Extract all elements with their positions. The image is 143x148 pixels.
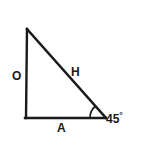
triangle-figure: O H A 45° bbox=[0, 0, 143, 148]
angle-label-45-degrees: 45° bbox=[106, 113, 123, 125]
angle-arc-45 bbox=[90, 107, 95, 119]
angle-value-text: 45 bbox=[106, 112, 119, 126]
side-label-opposite: O bbox=[12, 70, 21, 82]
degree-symbol-icon: ° bbox=[119, 110, 123, 120]
side-label-hypotenuse: H bbox=[71, 66, 80, 78]
hypotenuse-line bbox=[27, 29, 106, 118]
opposite-side-line bbox=[26, 29, 27, 118]
side-label-adjacent: A bbox=[57, 122, 66, 134]
